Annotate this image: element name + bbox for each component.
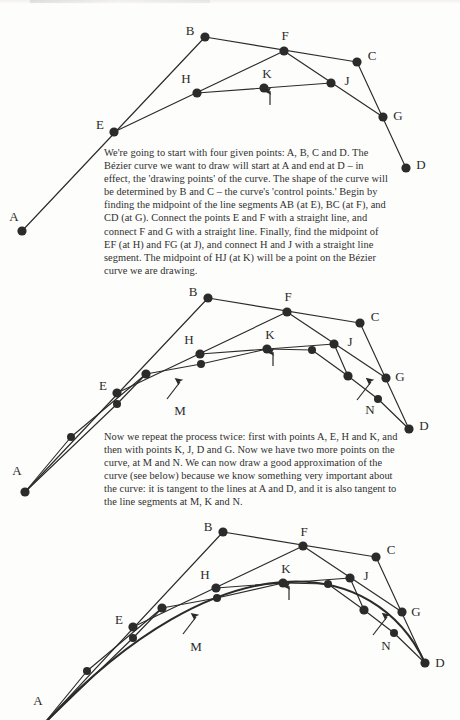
point-label-n: N xyxy=(365,403,374,416)
point-J2 xyxy=(308,346,316,354)
point-label-a: A xyxy=(9,210,18,223)
point-D xyxy=(401,163,410,172)
point-A2 xyxy=(67,433,75,441)
panel-2-caption: Now we repeat the process twice: first w… xyxy=(104,430,404,509)
point-label-f: F xyxy=(281,29,288,42)
point-E xyxy=(112,388,121,397)
point-label-m: M xyxy=(174,404,186,417)
point-label-m: M xyxy=(190,640,202,653)
point-B xyxy=(218,527,227,536)
point-H2 xyxy=(197,360,205,368)
point-label-h: H xyxy=(181,72,190,85)
point-label-e: E xyxy=(99,379,107,392)
point-label-b: B xyxy=(186,24,195,37)
point-F xyxy=(282,307,291,316)
point-label-h: H xyxy=(200,568,209,581)
point-label-g: G xyxy=(393,109,402,122)
point-F xyxy=(298,541,307,550)
figure-page: We're going to start with four given poi… xyxy=(0,0,460,720)
point-M xyxy=(157,603,166,612)
subdivision-chain-2 xyxy=(267,349,409,429)
panel-2-caption-text: Now we repeat the process twice: first w… xyxy=(104,430,404,509)
point-label-a: A xyxy=(12,464,21,477)
point-label-c: C xyxy=(387,543,396,556)
point-label-c: C xyxy=(371,310,380,323)
callout-arrow-M xyxy=(183,617,196,634)
bezier-construction-figure xyxy=(0,0,460,720)
point-label-d: D xyxy=(419,419,428,432)
point-J xyxy=(326,78,335,87)
callout-arrow-M xyxy=(167,382,180,399)
point-label-d: D xyxy=(435,656,444,669)
point-N xyxy=(343,371,352,380)
point-A xyxy=(20,487,29,496)
point-H2 xyxy=(213,594,221,602)
point-D xyxy=(404,424,413,433)
point-B xyxy=(203,293,212,302)
point-G2 xyxy=(390,629,398,637)
point-B xyxy=(200,32,209,41)
point-label-c: C xyxy=(368,49,377,62)
point-E2 xyxy=(129,634,137,642)
panel-1-caption: We're going to start with four given poi… xyxy=(104,146,392,277)
point-G2 xyxy=(374,395,382,403)
point-C xyxy=(355,318,364,327)
panel-1-caption-text: We're going to start with four given poi… xyxy=(104,146,392,277)
point-C xyxy=(371,552,380,561)
point-F xyxy=(279,46,288,55)
point-label-k: K xyxy=(281,562,290,575)
point-label-b: B xyxy=(204,520,213,533)
subdivision-chain-2 xyxy=(283,583,425,663)
point-label-f: F xyxy=(300,525,307,538)
point-E2 xyxy=(113,400,121,408)
point-A2 xyxy=(83,667,91,675)
point-K xyxy=(278,578,287,587)
point-label-g: G xyxy=(395,370,404,383)
point-label-e: E xyxy=(115,613,123,626)
point-label-e: E xyxy=(96,118,104,131)
point-M xyxy=(141,369,150,378)
bezier-curve xyxy=(42,582,425,720)
point-J xyxy=(329,339,338,348)
point-K xyxy=(262,344,271,353)
point-label-k: K xyxy=(265,328,274,341)
point-C xyxy=(352,57,361,66)
point-J xyxy=(345,573,354,582)
point-E xyxy=(109,127,118,136)
point-label-g: G xyxy=(411,605,420,618)
point-G xyxy=(378,112,387,121)
point-E xyxy=(128,622,137,631)
point-label-f: F xyxy=(284,290,291,303)
point-label-b: B xyxy=(189,285,198,298)
point-label-n: N xyxy=(381,639,390,652)
point-K xyxy=(259,83,268,92)
point-H xyxy=(192,88,201,97)
point-label-j: J xyxy=(363,569,368,582)
point-H xyxy=(211,583,220,592)
point-A xyxy=(17,226,26,235)
point-label-a: A xyxy=(33,694,42,707)
point-D xyxy=(420,658,429,667)
point-G xyxy=(381,373,390,382)
point-N xyxy=(359,605,368,614)
point-label-d: D xyxy=(416,158,425,171)
point-G xyxy=(397,607,406,616)
panel-3-group xyxy=(37,527,429,720)
point-label-h: H xyxy=(184,333,193,346)
point-label-j: J xyxy=(347,335,352,348)
point-H xyxy=(195,349,204,358)
point-label-k: K xyxy=(262,67,271,80)
point-label-j: J xyxy=(344,74,349,87)
point-J2 xyxy=(324,580,332,588)
